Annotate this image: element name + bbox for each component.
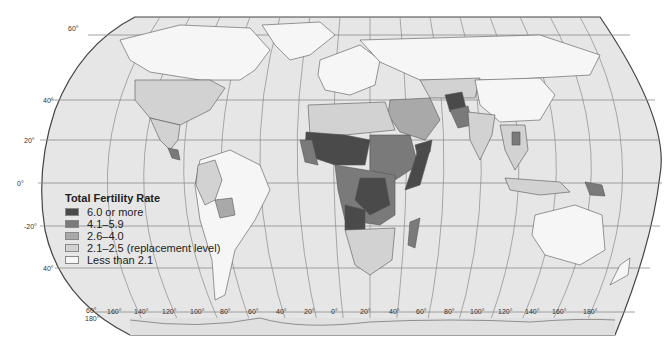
legend-item: Less than 2.1 — [65, 254, 255, 266]
legend-item: 4.1–5.9 — [65, 218, 255, 230]
legend-item: 6.0 or more — [65, 206, 255, 218]
lon-label: 180° — [85, 315, 100, 322]
svg-text:160°: 160° — [107, 308, 122, 315]
svg-text:0°: 0° — [331, 308, 338, 315]
lat-label-20s: -20° — [24, 223, 37, 230]
svg-text:80°: 80° — [444, 308, 455, 315]
svg-text:120°: 120° — [498, 308, 513, 315]
legend-item: 2.6–4.0 — [65, 230, 255, 242]
lat-label-40s: 40° — [43, 265, 54, 272]
laos — [512, 132, 520, 145]
svg-text:120°: 120° — [162, 308, 177, 315]
lat-label-60s: 60° — [86, 307, 97, 314]
swatch-2-6-4 — [65, 232, 79, 240]
svg-text:20°: 20° — [304, 308, 315, 315]
world-fertility-map: 60° 40° 20° 0° -20° 40° 60° 180° 160° 14… — [0, 0, 668, 352]
svg-text:40°: 40° — [276, 308, 287, 315]
svg-text:100°: 100° — [470, 308, 485, 315]
svg-text:100°: 100° — [190, 308, 205, 315]
svg-text:60°: 60° — [248, 308, 259, 315]
swatch-replacement — [65, 244, 79, 252]
swatch-6-plus — [65, 208, 79, 216]
north-africa — [308, 102, 395, 135]
lat-label-20n: 20° — [24, 137, 35, 144]
svg-text:80°: 80° — [220, 308, 231, 315]
svg-text:60°: 60° — [416, 308, 427, 315]
svg-text:40°: 40° — [389, 308, 400, 315]
legend-item: 2.1–2.5 (replacement level) — [65, 242, 255, 254]
swatch-4-6 — [65, 220, 79, 228]
svg-text:180°: 180° — [583, 308, 598, 315]
swatch-below-2-1 — [65, 256, 79, 264]
svg-text:140°: 140° — [134, 308, 149, 315]
svg-text:140°: 140° — [525, 308, 540, 315]
svg-text:160°: 160° — [552, 308, 567, 315]
svg-text:20°: 20° — [360, 308, 371, 315]
lat-label-40n: 40° — [43, 97, 54, 104]
lat-label-60n: 60° — [68, 25, 79, 32]
lat-label-0: 0° — [17, 180, 24, 187]
legend-title: Total Fertility Rate — [65, 192, 255, 204]
legend: Total Fertility Rate 6.0 or more 4.1–5.9… — [65, 192, 255, 266]
antarctica — [130, 318, 615, 335]
